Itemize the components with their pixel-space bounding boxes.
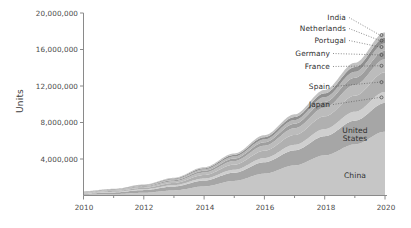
x-tick-label-2014: 2014 bbox=[184, 203, 226, 212]
x-tick-label-2018: 2018 bbox=[305, 203, 347, 212]
y-tick-label-12m: 12,000,000 bbox=[14, 82, 78, 91]
series-label-spain: Spain bbox=[254, 82, 330, 91]
series-label-india: India bbox=[290, 13, 346, 22]
y-tick-label-16m: 16,000,000 bbox=[14, 45, 78, 54]
x-axis-ticks bbox=[84, 196, 386, 200]
x-tick-label-2016: 2016 bbox=[244, 203, 286, 212]
y-tick-label-4m: 4,000,000 bbox=[14, 155, 78, 164]
leader-line-netherlands bbox=[349, 29, 380, 41]
x-tick-label-2010: 2010 bbox=[63, 203, 105, 212]
united-states-label-line2: States bbox=[343, 134, 368, 143]
series-label-netherlands: Netherlands bbox=[262, 24, 346, 33]
y-tick-label-8m: 8,000,000 bbox=[14, 118, 78, 127]
series-label-japan: Japan bbox=[254, 100, 330, 109]
x-tick-label-2020: 2020 bbox=[365, 203, 407, 212]
chart-canvas bbox=[0, 0, 411, 228]
y-tick-label-20m: 20,000,000 bbox=[14, 9, 78, 18]
stacked-area-chart: Units 20,000,000 16,000,000 12,000,000 8… bbox=[0, 0, 411, 228]
x-tick-label-2012: 2012 bbox=[123, 203, 165, 212]
series-label-united-states: United States bbox=[330, 127, 380, 144]
series-label-germany: Germany bbox=[254, 49, 330, 58]
leader-line-india bbox=[349, 18, 380, 36]
y-axis-ticks bbox=[80, 13, 84, 159]
series-label-china: China bbox=[330, 172, 380, 180]
series-label-france: France bbox=[254, 62, 330, 71]
series-label-portugal: Portugal bbox=[270, 36, 346, 45]
